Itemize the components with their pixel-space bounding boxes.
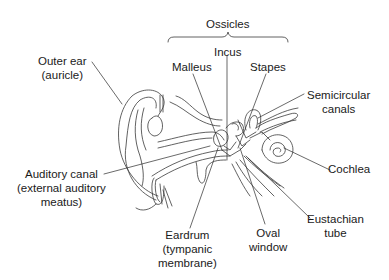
label-auditory-canal: Auditory canal (external auditory meatus… bbox=[17, 167, 106, 209]
label-cochlea: Cochlea bbox=[328, 162, 370, 176]
label-oval-window: Oval window bbox=[249, 226, 287, 254]
label-ossicles: Ossicles bbox=[206, 17, 249, 31]
label-malleus: Malleus bbox=[172, 60, 212, 74]
leader-cochlea bbox=[284, 148, 330, 170]
cochlea-shape bbox=[262, 135, 293, 163]
ossicles-brace bbox=[168, 32, 288, 42]
outer-ear-shape bbox=[119, 90, 173, 210]
label-incus: Incus bbox=[214, 45, 242, 59]
label-eardrum: Eardrum (tympanic membrane) bbox=[158, 228, 217, 270]
leader-eustachian-tube bbox=[246, 156, 310, 218]
leader-outer-ear bbox=[92, 62, 122, 104]
eustachian-tube-shape bbox=[232, 156, 284, 196]
label-outer-ear: Outer ear (auricle) bbox=[38, 54, 87, 82]
leader-eardrum bbox=[190, 148, 218, 228]
label-eustachian-tube: Eustachian tube bbox=[307, 212, 364, 240]
semicircular-canals-shape bbox=[245, 108, 298, 140]
ear-anatomy-diagram: Ossicles Outer ear (auricle) Malleus Inc… bbox=[0, 0, 389, 280]
leader-lines bbox=[92, 56, 330, 228]
label-semicircular-canals: Semicircular canals bbox=[307, 88, 370, 116]
label-stapes: Stapes bbox=[250, 60, 286, 74]
